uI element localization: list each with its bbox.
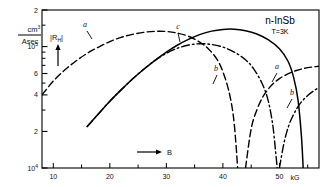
chart-subtitle: T=3K: [272, 28, 289, 35]
curve-label-b-left: b: [214, 64, 218, 73]
y-tick-label: 2: [34, 128, 38, 135]
x-axis-label-group: B: [137, 148, 172, 157]
curve-label-b-right: b: [290, 88, 294, 97]
y-tick-label: 4: [34, 91, 38, 98]
data-curves: [42, 29, 319, 168]
curve-label-leader: [287, 99, 292, 108]
y-axis-unit: cm3 Asec: [18, 24, 41, 46]
y-tick-label: 104: [27, 163, 38, 172]
y-unit-denominator: Asec: [22, 37, 39, 46]
x-tick-label: 20: [106, 173, 114, 180]
curve-label-a-right: a: [275, 62, 279, 71]
y-axis-arrow-head: [55, 44, 60, 50]
chart-figure: 1020304050 1042461052 acbab n-InSb T=3K …: [0, 0, 326, 187]
curve-b-right: [279, 88, 319, 168]
x-axis-ticks: [53, 163, 307, 168]
y-axis-label: |RH|: [50, 33, 63, 43]
x-axis-tick-labels: 1020304050: [49, 173, 283, 180]
x-axis-label: B: [167, 148, 172, 157]
curve-c-left: [87, 29, 303, 168]
curve-labels: acbab: [83, 20, 294, 108]
y-unit-numerator: cm3: [28, 24, 41, 34]
curve-b-left: [87, 44, 277, 168]
curve-label-c-left: c: [176, 22, 180, 31]
curve-label-leader: [87, 31, 92, 39]
x-tick-label: 50: [276, 173, 284, 180]
chart-title: n-InSb: [265, 15, 295, 26]
curve-label-a-left: a: [83, 20, 87, 29]
x-tick-label: 30: [162, 173, 170, 180]
x-tick-label: 40: [219, 173, 227, 180]
y-tick-label: 2: [34, 7, 38, 14]
x-axis-arrow-head: [156, 149, 162, 154]
y-axis-label-group: |RH|: [50, 33, 63, 66]
curve-label-leader: [213, 75, 217, 84]
y-tick-label: 6: [34, 70, 38, 77]
hall-coefficient-chart: 1020304050 1042461052 acbab n-InSb T=3K …: [0, 0, 326, 187]
x-tick-label: 10: [49, 173, 57, 180]
curve-label-leader: [178, 33, 180, 42]
curve-a-left: [42, 31, 238, 168]
x-axis-unit-label: kG: [291, 174, 300, 181]
